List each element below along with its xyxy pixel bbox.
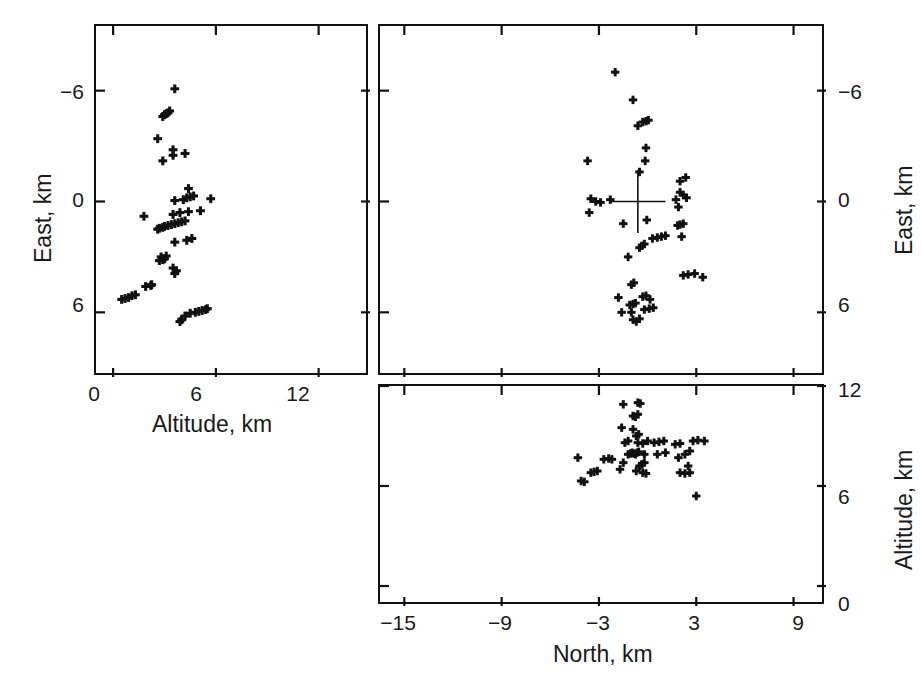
data-point-marker	[635, 168, 643, 176]
data-point-marker	[206, 194, 215, 203]
data-point-marker	[653, 450, 661, 458]
ytick-label-topright-1: 0	[838, 189, 878, 210]
xtick-label-bottomright-3: 3	[669, 612, 719, 633]
data-point-marker	[672, 195, 680, 203]
data-point-marker	[184, 207, 193, 216]
panel-altitude-vs-north	[378, 384, 824, 604]
origin-crosshair-marker	[610, 170, 665, 233]
xtick-label-left-2: 12	[278, 383, 318, 404]
data-point-marker	[629, 96, 637, 104]
data-point-marker	[614, 293, 622, 301]
data-point-marker	[619, 400, 627, 408]
xtick-label-bottomright-4: 9	[773, 612, 823, 633]
data-point-marker	[153, 134, 162, 143]
xtick-label-bottomright-2: −3	[573, 612, 623, 633]
ytick-label-left-0: −6	[44, 81, 84, 102]
data-point-marker	[627, 308, 635, 316]
ytick-label-topright-0: −6	[838, 81, 878, 102]
data-point-marker	[140, 212, 149, 221]
data-point-marker	[660, 437, 668, 445]
xtick-label-left-1: 6	[176, 383, 216, 404]
data-point-marker	[196, 206, 205, 215]
data-point-marker	[619, 219, 627, 227]
scatter-plot-altitude-vs-north	[380, 386, 826, 606]
data-point-marker	[169, 145, 178, 154]
data-point-marker	[641, 157, 649, 165]
data-point-marker	[181, 149, 190, 158]
figure-caption	[40, 672, 890, 692]
data-point-marker	[158, 156, 167, 165]
data-point-marker	[700, 437, 708, 445]
data-point-marker	[585, 208, 593, 216]
ytick-label-bottomright-1: 6	[838, 486, 878, 507]
xaxis-title-north: North, km	[553, 643, 653, 666]
data-point-marker	[617, 423, 625, 431]
xtick-label-bottomright-0: −15	[373, 612, 423, 633]
data-point-marker	[643, 216, 651, 224]
scatter-plot-east-vs-altitude	[96, 26, 370, 377]
data-point-marker	[690, 269, 698, 277]
ytick-label-bottomright-2: 12	[838, 379, 878, 400]
data-point-marker	[674, 203, 682, 211]
data-point-marker	[606, 195, 614, 203]
data-point-marker	[677, 232, 685, 240]
ytick-label-left-2: 6	[44, 294, 84, 315]
data-point-marker	[170, 84, 179, 93]
yaxis-title-altitude-right: Altitude, km	[893, 450, 916, 570]
data-point-marker	[617, 308, 625, 316]
data-point-marker	[676, 439, 684, 447]
xtick-label-bottomright-1: −9	[475, 612, 525, 633]
data-point-marker	[699, 273, 707, 281]
xaxis-title-altitude: Altitude, km	[152, 413, 272, 436]
panel-east-vs-altitude	[94, 24, 368, 375]
data-point-marker	[624, 253, 632, 261]
data-point-marker	[170, 196, 179, 205]
data-point-marker	[642, 144, 650, 152]
xtick-label-left-0: 0	[74, 383, 114, 404]
data-point-marker	[692, 492, 700, 500]
data-point-marker	[583, 157, 591, 165]
yaxis-title-east-right: East, km	[893, 166, 916, 255]
panel-east-vs-north	[378, 24, 824, 375]
data-point-marker	[574, 453, 582, 461]
data-point-marker	[596, 198, 604, 206]
data-point-marker	[170, 238, 179, 247]
ytick-label-topright-2: 6	[838, 294, 878, 315]
scatter-plot-east-vs-north	[380, 26, 826, 377]
ytick-label-bottomright-0: 0	[838, 593, 878, 614]
data-point-marker	[611, 68, 619, 76]
data-point-marker	[184, 184, 193, 193]
figure-root: −6 0 6 0 6 12 East, km Altitude, km −6 0…	[0, 0, 921, 695]
data-point-marker	[661, 448, 669, 456]
yaxis-title-east-left: East, km	[32, 174, 55, 263]
